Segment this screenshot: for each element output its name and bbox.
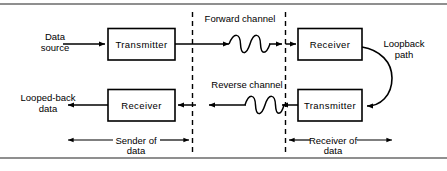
receiver-span-label-line2: data: [324, 145, 343, 156]
receiver-span-label-line1: Receiver of: [309, 135, 357, 146]
top-receiver-label: Receiver: [310, 39, 351, 50]
figure-container: Transmitter Receiver Forward channel Loo…: [0, 0, 447, 171]
data-source-label-line2: source: [41, 42, 70, 53]
bottom-receiver-label: Receiver: [121, 100, 162, 111]
looped-back-data-label-line1: Looped-back: [21, 92, 76, 103]
sender-span-label-line1: Sender of: [115, 135, 157, 146]
reverse-channel-label: Reverse channel: [211, 79, 282, 90]
reverse-channel-squiggle-icon: [245, 96, 284, 113]
loopback-path-curve: [362, 47, 392, 106]
looped-back-data-label-line2: data: [39, 103, 58, 114]
forward-channel-squiggle-icon: [229, 35, 270, 52]
loopback-label-line1: Loopback: [383, 38, 424, 49]
data-source-label-line1: Data: [45, 31, 66, 42]
sender-span-label-line2: data: [127, 145, 146, 156]
loopback-label-line2: path: [395, 49, 414, 60]
top-transmitter-label: Transmitter: [115, 39, 167, 50]
bottom-transmitter-label: Transmitter: [304, 100, 356, 111]
forward-channel-label: Forward channel: [205, 13, 276, 24]
diagram-canvas: Transmitter Receiver Forward channel Loo…: [0, 0, 447, 171]
